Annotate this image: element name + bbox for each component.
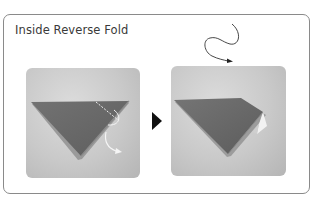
step-2-photo: [171, 66, 286, 176]
folded-triangle-image: [26, 68, 140, 178]
reverse-folded-triangle-image: [171, 66, 286, 176]
step-1-photo: [26, 68, 140, 178]
next-step-arrow-icon: [151, 111, 163, 131]
squiggle-turn-arrow-icon: [200, 22, 245, 64]
push-in-arrow: [105, 132, 116, 151]
diagram-title: Inside Reverse Fold: [15, 23, 128, 37]
